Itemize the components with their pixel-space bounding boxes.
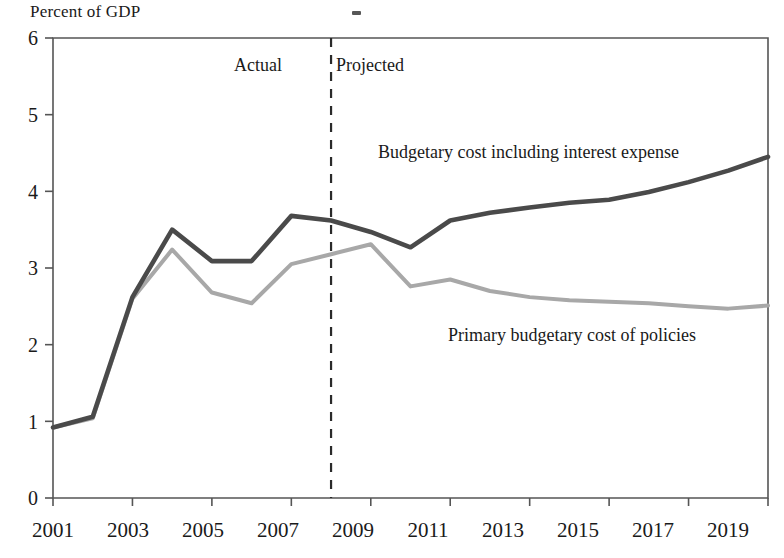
series-line-budgetary-cost-including-interest xyxy=(53,157,768,428)
chart-figure: Percent of GDP 6 5 4 3 2 1 0 2001 2003 2… xyxy=(0,0,784,558)
series-line-primary-budgetary-cost xyxy=(53,244,768,427)
x-axis-ticks xyxy=(53,498,768,506)
plot-area xyxy=(0,0,784,558)
axis-frame xyxy=(53,38,768,498)
